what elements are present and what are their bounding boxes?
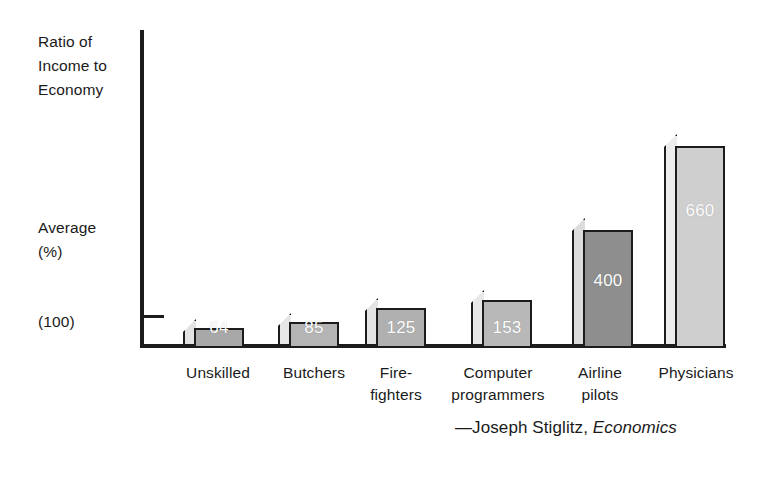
x-axis-label-computer-programmers-line1: Computer	[436, 362, 560, 384]
x-axis-label-airline-pilots: Airline pilots	[556, 362, 644, 406]
x-axis-label-unskilled-line1: Unskilled	[163, 362, 273, 384]
plot-area: 64 85 125 153 400	[140, 30, 726, 346]
bar-value-label-unskilled: 64	[196, 318, 242, 338]
x-axis-label-firefighters-line2: fighters	[348, 384, 444, 406]
bar-front-face-firefighters: 125	[376, 308, 426, 346]
x-axis-label-physicians: Physicians	[641, 362, 751, 384]
x-axis-label-computer-programmers: Computer programmers	[436, 362, 560, 406]
bar-front-face-airline-pilots: 400	[583, 230, 633, 346]
bar-value-label-computer-programmers: 153	[484, 318, 530, 338]
bar-value-label-physicians: 660	[677, 201, 723, 221]
x-axis-label-airline-pilots-line1: Airline	[556, 362, 644, 384]
attribution-author: —Joseph Stiglitz,	[455, 418, 593, 437]
bar-front-face-physicians: 660	[675, 146, 725, 346]
x-axis-label-physicians-line1: Physicians	[641, 362, 751, 384]
bar-value-label-firefighters: 125	[378, 318, 424, 338]
y-axis-caption-average: Average (%)	[38, 216, 96, 264]
y-axis-tick-label-100: (100)	[38, 310, 75, 334]
y-axis-caption-line-4: Average	[38, 216, 96, 240]
x-axis-label-unskilled: Unskilled	[163, 362, 273, 384]
chart-attribution: —Joseph Stiglitz, Economics	[455, 418, 677, 438]
y-axis-caption-ratio: Ratio of Income to Economy	[38, 30, 107, 102]
y-axis-caption-line-1: Ratio of	[38, 30, 107, 54]
x-axis-label-firefighters: Fire- fighters	[348, 362, 444, 406]
y-axis-caption-line-3: Economy	[38, 78, 107, 102]
bar-front-face-computer-programmers: 153	[482, 300, 532, 346]
attribution-source-title: Economics	[593, 418, 677, 437]
x-axis-label-computer-programmers-line2: programmers	[436, 384, 560, 406]
x-axis-label-airline-pilots-line2: pilots	[556, 384, 644, 406]
bar-chart-figure: Ratio of Income to Economy Average (%) (…	[0, 0, 779, 478]
x-axis-label-firefighters-line1: Fire-	[348, 362, 444, 384]
y-axis-caption-line-5: (%)	[38, 240, 96, 264]
bar-front-face-butchers: 85	[289, 322, 339, 346]
bar-value-label-butchers: 85	[291, 318, 337, 338]
bar-front-face-unskilled: 64	[194, 328, 244, 346]
bar-value-label-airline-pilots: 400	[585, 271, 631, 291]
y-axis-caption-line-2: Income to	[38, 54, 107, 78]
